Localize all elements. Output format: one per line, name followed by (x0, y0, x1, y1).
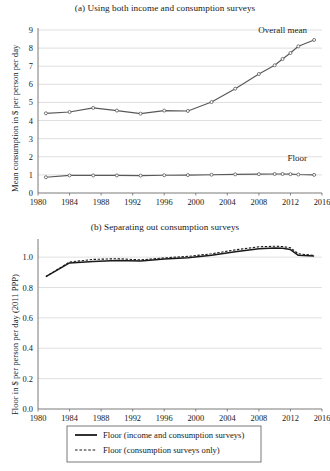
panel-b-ytick-2: 0.4 (23, 344, 34, 353)
panel-a: (a) Using both income and consumption su… (0, 0, 330, 215)
panel-a-xtick-9: 2016 (314, 198, 330, 207)
panel-a-xtick-4: 1996 (156, 198, 173, 207)
panel-a-ytick-3: 3 (29, 135, 33, 144)
panel-a-data-point (313, 173, 316, 176)
panel-a-data-point (297, 45, 300, 48)
panel-a-xtick-2: 1988 (93, 198, 110, 207)
panel-a-data-point (257, 173, 260, 176)
panel-a-data-point (273, 172, 276, 175)
panel-a-ytick-4: 4 (29, 117, 34, 126)
panel-a-data-point (44, 176, 47, 179)
panel-a-data-point (281, 57, 284, 60)
panel-b-ytick-4: 0.8 (23, 284, 33, 293)
panel-a-data-point (210, 101, 213, 104)
panel-a-data-point (115, 109, 118, 112)
panel-b-xtick-8: 2012 (282, 414, 299, 423)
panel-b-xtick-3: 1992 (124, 414, 141, 423)
panel-a-data-point (257, 73, 260, 76)
panel-a-data-point (234, 87, 237, 90)
panel-a-ytick-5: 5 (29, 98, 33, 107)
panel-a-xtick-5: 2000 (187, 198, 204, 207)
panel-a-data-point (139, 174, 142, 177)
panel-a-data-point (44, 112, 47, 115)
panel-a-xtick-0: 1980 (30, 198, 47, 207)
panel-a-data-point (68, 174, 71, 177)
panel-a-data-point (313, 38, 316, 41)
panel-a-data-point (289, 173, 292, 176)
panel-a-ytick-0: 0 (29, 189, 33, 198)
panel-a-data-point (139, 112, 142, 115)
panel-a-data-point (115, 174, 118, 177)
panel-a-data-point (281, 172, 284, 175)
overall-mean-label: Overall mean (258, 25, 307, 35)
panel-a-data-point (163, 109, 166, 112)
panel-a-data-point (297, 173, 300, 176)
legend-label-0: Floor (income and consumption surveys) (103, 430, 244, 440)
panel-a-ytick-6: 6 (29, 80, 33, 89)
panel-a-ytick-2: 2 (29, 153, 33, 162)
panel-a-ytick-7: 7 (29, 62, 33, 71)
panel-b: (b) Separating out consumption surveys F… (0, 215, 330, 471)
panel-a-xtick-8: 2012 (282, 198, 299, 207)
panel-a-plot: 0123456789198019841988199219962000200420… (0, 0, 330, 215)
panel-a-data-point (210, 173, 213, 176)
panel-a-data-point (163, 174, 166, 177)
panel-a-data-point (234, 173, 237, 176)
panel-a-data-point (92, 174, 95, 177)
panel-b-xtick-9: 2016 (314, 414, 330, 423)
panel-a-data-point (92, 106, 95, 109)
panel-a-ytick-8: 8 (29, 44, 33, 53)
panel-a-data-point (186, 109, 189, 112)
panel-b-ytick-1: 0.2 (23, 375, 33, 384)
panel-a-data-point (186, 174, 189, 177)
panel-b-xtick-5: 2000 (187, 414, 204, 423)
figure-container: (a) Using both income and consumption su… (0, 0, 330, 471)
panel-b-xtick-1: 1984 (61, 414, 79, 423)
panel-a-xtick-1: 1984 (61, 198, 79, 207)
panel-b-ytick-3: 0.6 (23, 314, 33, 323)
panel-b-xtick-0: 1980 (30, 414, 47, 423)
panel-a-xtick-7: 2008 (251, 198, 268, 207)
panel-b-ytick-5: 1.0 (23, 253, 33, 262)
panel-b-plot: 0.00.20.40.60.81.01980198419881992199620… (0, 215, 330, 471)
panel-a-xtick-6: 2004 (219, 198, 237, 207)
panel-a-data-point (289, 52, 292, 55)
panel-a-ytick-9: 9 (29, 26, 33, 35)
floor-label: Floor (287, 153, 307, 163)
panel-b-xtick-6: 2004 (219, 414, 237, 423)
panel-b-series-0-line (46, 248, 314, 277)
panel-b-xtick-7: 2008 (251, 414, 268, 423)
panel-b-ytick-0: 0.0 (23, 405, 33, 414)
panel-a-data-point (68, 111, 71, 114)
panel-b-xtick-4: 1996 (156, 414, 173, 423)
panel-a-ytick-1: 1 (29, 171, 33, 180)
panel-b-xtick-2: 1988 (93, 414, 110, 423)
panel-a-data-point (273, 64, 276, 67)
legend-label-1: Floor (consumption surveys only) (103, 445, 220, 455)
panel-a-xtick-3: 1992 (124, 198, 141, 207)
